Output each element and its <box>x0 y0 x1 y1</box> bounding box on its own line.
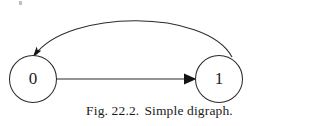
figure-caption-label: Fig. 22.2. <box>86 103 139 118</box>
scan-artifact <box>19 1 22 5</box>
edge-1-to-0 <box>35 21 233 57</box>
figure-caption-title: Simple digraph. <box>144 103 233 118</box>
node-1-label: 1 <box>215 69 224 88</box>
figure-container: 0 1 Fig. 22.2.Simple digraph. <box>0 0 319 126</box>
arrow-head-into-node-1 <box>184 73 197 84</box>
node-0-label: 0 <box>29 69 38 88</box>
figure-caption: Fig. 22.2.Simple digraph. <box>0 103 319 119</box>
